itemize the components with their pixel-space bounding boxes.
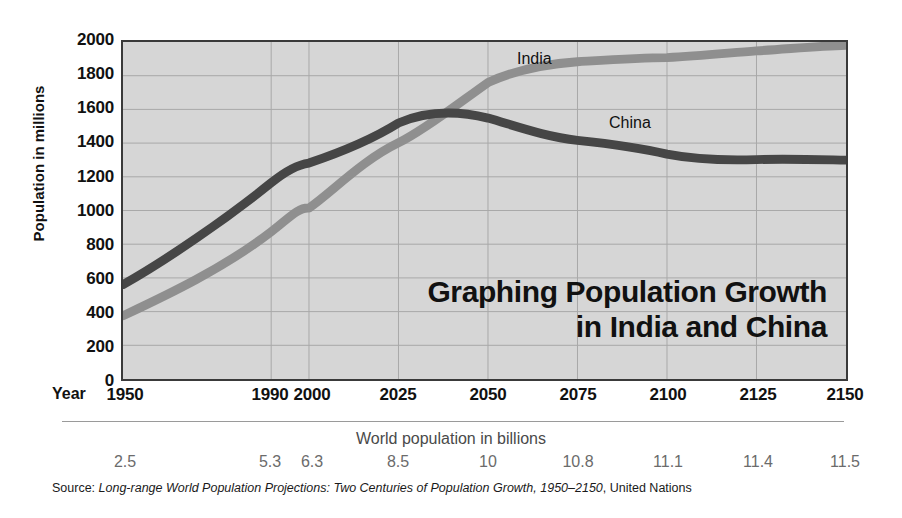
y-tick-1400: 1400 (58, 132, 114, 152)
chart-title: Graphing Population Growth in India and … (402, 274, 827, 345)
chart-title-line-2: in India and China (402, 309, 827, 344)
world-pop-2050: 10 (479, 453, 497, 471)
x-tick-2025: 2025 (379, 385, 416, 405)
world-pop-2125: 11.4 (743, 453, 773, 471)
x-tick-2125: 2125 (739, 385, 776, 405)
y-tick-800: 800 (58, 235, 114, 255)
plot-area: India China Graphing Population Growth i… (121, 40, 848, 381)
x-tick-2150: 2150 (826, 385, 863, 405)
x-axis-tick-labels: 1950 1990 2000 2025 2050 2075 2100 2125 … (0, 385, 902, 409)
horizontal-divider (62, 421, 844, 422)
world-pop-1990: 5.3 (259, 453, 281, 471)
x-tick-2000: 2000 (293, 385, 330, 405)
x-tick-1950: 1950 (106, 385, 143, 405)
x-tick-2050: 2050 (469, 385, 506, 405)
secondary-axis-values: 2.5 5.3 6.3 8.5 10 10.8 11.1 11.4 11.5 (0, 453, 902, 475)
source-suffix: , United Nations (603, 481, 692, 495)
source-note: Source: Long-range World Population Proj… (52, 481, 692, 495)
x-tick-2100: 2100 (649, 385, 686, 405)
y-tick-200: 200 (58, 337, 114, 357)
world-pop-2075: 10.8 (562, 453, 593, 471)
source-prefix: Source: (52, 481, 99, 495)
chart-figure: Population in millions 2000 1800 1600 14… (0, 0, 902, 518)
y-tick-1800: 1800 (58, 64, 114, 84)
series-label-china: China (609, 114, 651, 132)
chart-title-line-1: Graphing Population Growth (402, 274, 827, 309)
x-tick-1990: 1990 (251, 385, 288, 405)
y-tick-1200: 1200 (58, 167, 114, 187)
world-pop-2025: 8.5 (387, 453, 409, 471)
y-tick-1600: 1600 (58, 98, 114, 118)
world-pop-2100: 11.1 (653, 453, 683, 471)
secondary-axis-title: World population in billions (0, 430, 902, 448)
x-tick-2075: 2075 (559, 385, 596, 405)
y-tick-2000: 2000 (58, 30, 114, 50)
world-pop-2000: 6.3 (301, 453, 323, 471)
series-label-india: India (517, 50, 552, 68)
world-pop-1950: 2.5 (114, 453, 136, 471)
world-pop-2150: 11.5 (830, 453, 860, 471)
y-tick-600: 600 (58, 269, 114, 289)
source-title: Long-range World Population Projections:… (99, 481, 603, 495)
y-axis-title: Population in millions (30, 64, 47, 264)
y-tick-400: 400 (58, 303, 114, 323)
y-tick-1000: 1000 (58, 201, 114, 221)
